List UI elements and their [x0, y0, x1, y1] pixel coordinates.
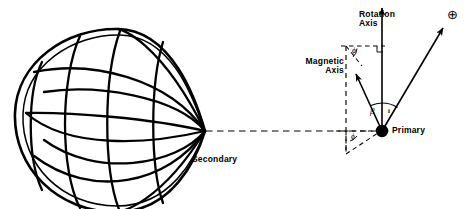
- secondary-roche-lobe: [15, 29, 205, 209]
- line-of-sight-arrow: [382, 28, 443, 131]
- phi-lower-angle-label: ϕ: [351, 133, 355, 141]
- primary-star-dot: [376, 125, 388, 137]
- binary-star-geometry-figure: Secondary Primary Rotation Axis Magnetic…: [0, 0, 468, 209]
- magnetic-axis-label: Magnetic Axis: [282, 57, 344, 75]
- primary-label: Primary: [392, 126, 425, 135]
- angle-arcs-at-primary: [371, 103, 398, 108]
- phi-upper-angle-label: ϕ: [352, 47, 356, 55]
- observer-earth-symbol: ⊕: [447, 8, 458, 21]
- magnetic-axis-label-line2: Axis: [282, 66, 344, 75]
- phi-upper-construction: [341, 46, 385, 66]
- magnetic-axis-arrow: [356, 74, 382, 131]
- rotation-axis-label-line2: Axis: [359, 19, 395, 28]
- secondary-label: Secondary: [192, 155, 237, 164]
- inclination-angle-label: i: [388, 108, 390, 115]
- figure-vector-canvas: [0, 0, 468, 209]
- beta-angle-label: β: [370, 107, 374, 116]
- rotation-axis-label: Rotation Axis: [359, 10, 395, 28]
- phi-lower-construction: [336, 131, 383, 155]
